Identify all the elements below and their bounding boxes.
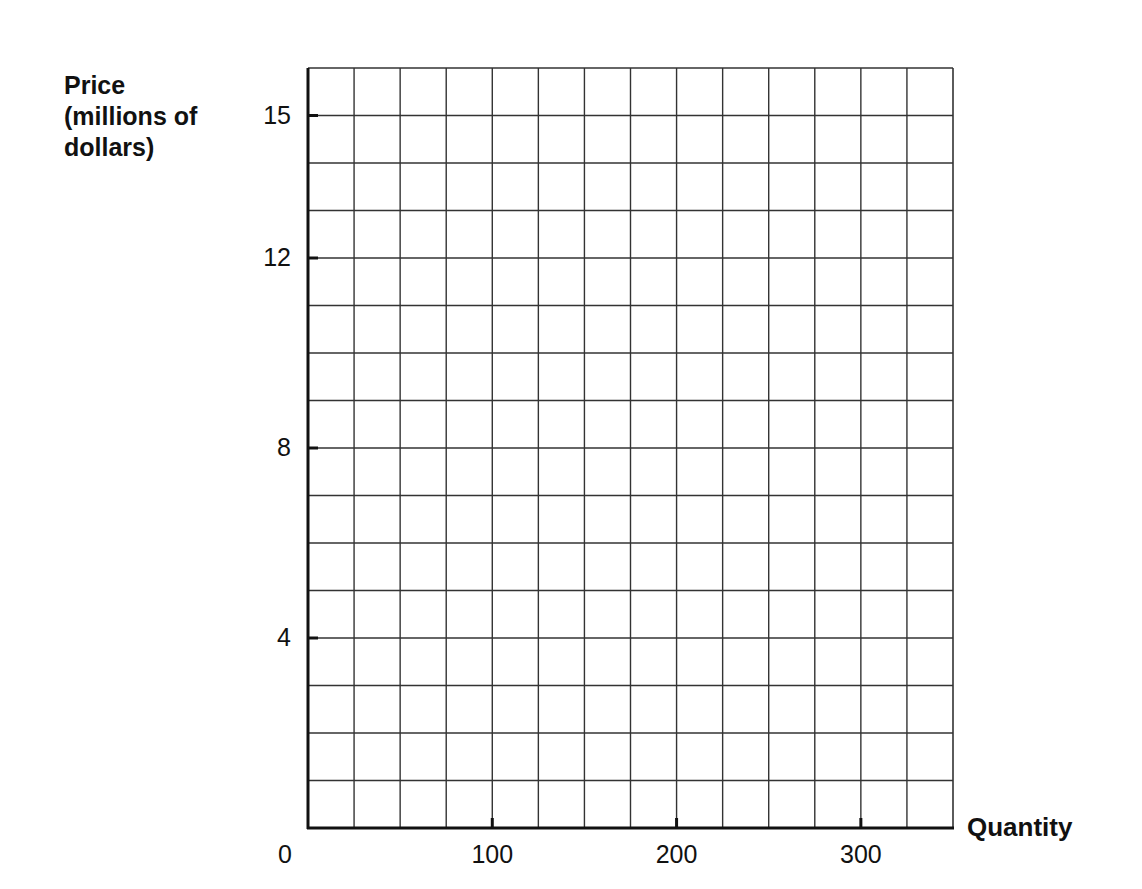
- y-tick-label: 8: [231, 433, 291, 462]
- x-tick-label: 300: [821, 840, 901, 869]
- y-axis-label: Price (millions of dollars): [64, 70, 197, 163]
- x-axis-label: Quantity: [967, 812, 1072, 843]
- x-tick-label: 100: [452, 840, 532, 869]
- x-tick-label: 200: [637, 840, 717, 869]
- x-tick-label: 0: [245, 840, 325, 869]
- y-tick-label: 12: [231, 243, 291, 272]
- y-tick-label: 15: [231, 101, 291, 130]
- grid-lines: [308, 68, 953, 828]
- y-tick-label: 4: [231, 623, 291, 652]
